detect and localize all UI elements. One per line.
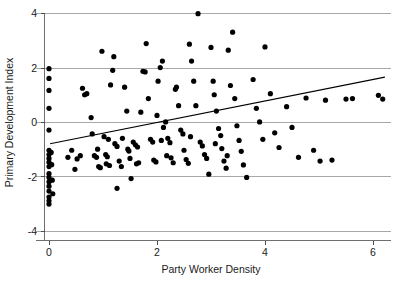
data-point [244,175,249,180]
data-point [191,79,196,84]
data-point [188,134,193,139]
data-point [380,97,385,102]
data-point [180,131,185,136]
data-point [224,166,229,171]
data-point [159,138,164,143]
data-point [108,82,113,87]
data-point [46,128,51,133]
data-point [260,137,265,142]
data-point [174,85,179,90]
data-point [136,160,141,165]
y-tick-label-0: 0 [31,116,37,128]
data-point [126,148,131,153]
data-point [46,106,51,111]
data-point [164,153,169,158]
data-point [268,91,273,96]
data-point [226,48,231,53]
data-point [135,144,140,149]
data-point [204,156,209,161]
data-point [119,164,124,169]
data-point [234,123,239,128]
data-point [46,184,51,189]
data-point [160,58,165,63]
data-point [167,140,172,145]
data-point [49,150,54,155]
data-point [107,163,112,168]
data-point [213,141,218,146]
data-point [120,136,125,141]
data-point [99,49,104,54]
x-tick-label-6: 6 [370,246,376,258]
data-point [181,148,186,153]
data-point [221,159,226,164]
data-point [187,42,192,47]
data-point [228,83,233,88]
data-point [211,79,216,84]
y-tick-label--2: -2 [28,171,37,183]
data-point [329,157,334,162]
data-point [186,161,191,166]
data-point [289,125,294,130]
regression-fit-line [50,77,385,144]
x-tick-label-2: 2 [154,246,160,258]
data-point [105,154,110,159]
gridlines-group [36,14,391,232]
data-point [303,95,308,100]
data-point [216,126,221,131]
fit-line-group [50,77,385,144]
data-point [72,167,77,172]
data-point [95,147,100,152]
data-point [46,76,51,81]
data-point [128,176,133,181]
data-point [241,162,246,167]
data-point [376,93,381,98]
data-point [80,86,85,91]
data-point [212,92,217,97]
data-point [171,160,176,165]
data-point [127,156,132,161]
data-point [317,159,322,164]
data-point [114,186,119,191]
axis-labels-group: -4-20240246Party Worker DensityPrimary D… [3,7,376,274]
data-point [232,96,237,101]
data-point [296,155,301,160]
data-point [193,103,198,108]
data-point [50,178,55,183]
scatter-plot-figure: -4-20240246Party Worker DensityPrimary D… [0,0,395,283]
data-point [254,106,259,111]
data-point [195,11,200,16]
data-point [343,97,348,102]
x-tick-label-4: 4 [262,246,268,258]
data-point [208,45,213,50]
y-tick-label-2: 2 [31,62,37,74]
data-point [144,41,149,46]
data-point [158,65,163,70]
data-point [114,144,119,149]
data-point [239,149,244,154]
plot-canvas: -4-20240246Party Worker DensityPrimary D… [0,0,395,283]
y-tick-label-4: 4 [31,7,37,19]
data-point [161,125,166,130]
data-point [65,155,70,160]
data-point [218,133,223,138]
data-point [176,103,181,108]
data-point [138,110,143,115]
axes-group [36,14,391,245]
data-point [257,119,262,124]
data-point [251,77,256,82]
data-point [49,162,54,167]
data-point [69,148,74,153]
y-tick-label--4: -4 [28,225,37,237]
data-point [50,191,55,196]
data-point [323,98,328,103]
data-point [146,96,151,101]
data-point [46,88,51,93]
data-point [84,91,89,96]
data-point [106,137,111,142]
data-point [94,155,99,160]
data-point [98,165,103,170]
y-axis-title: Primary Development Index [3,57,15,187]
data-point [150,139,155,144]
data-point [153,159,158,164]
data-point [272,130,277,135]
